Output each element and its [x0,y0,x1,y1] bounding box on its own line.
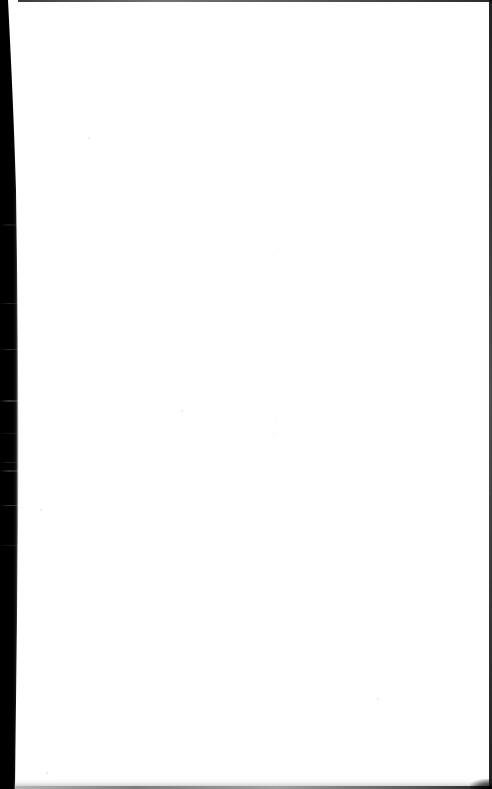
bottom-edge-haze [14,779,492,786]
bottom-right-corner-blot [470,779,492,789]
page-content-area [30,14,482,777]
scanned-page [0,0,492,789]
top-edge-line [18,0,492,2]
